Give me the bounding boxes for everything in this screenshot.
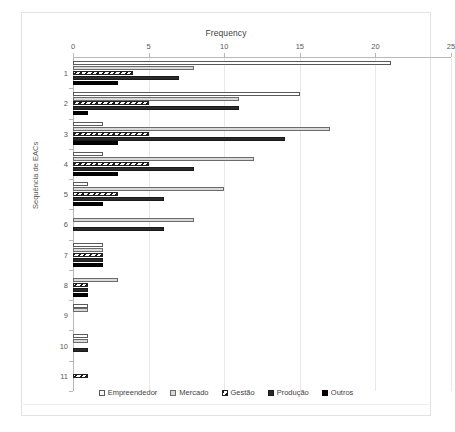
y-tick-label: 5 <box>64 190 68 199</box>
legend-label: Outros <box>331 388 354 397</box>
bar-mercado <box>73 97 239 101</box>
legend-swatch-icon <box>322 390 328 396</box>
bar-group: 6 <box>73 209 451 239</box>
legend-item-empreendedor[interactable]: Empreendedor <box>99 388 158 397</box>
bar-group: 9 <box>73 300 451 330</box>
bar-produção <box>73 76 179 80</box>
bar-empreendedor <box>73 334 88 338</box>
legend-swatch-icon <box>222 390 228 396</box>
y-tick-label: 4 <box>64 159 68 168</box>
legend-divider <box>23 404 429 405</box>
legend-label: Gestão <box>231 388 255 397</box>
bar-group: 1 <box>73 58 451 88</box>
bar-mercado <box>73 157 254 161</box>
y-tick-label: 7 <box>64 250 68 259</box>
bar-mercado <box>73 308 88 312</box>
chart-title: Frequency <box>22 28 430 38</box>
bar-outros <box>73 202 103 206</box>
x-tick-label: 0 <box>71 42 75 51</box>
bar-mercado <box>73 248 103 252</box>
chart-legend: EmpreendedorMercadoGestãoProduçãoOutros <box>22 388 430 397</box>
bar-mercado <box>73 187 224 191</box>
x-tick-label: 15 <box>296 42 304 51</box>
bar-empreendedor <box>73 122 103 126</box>
bar-outros <box>73 263 103 267</box>
legend-item-outros[interactable]: Outros <box>322 388 354 397</box>
legend-item-gestão[interactable]: Gestão <box>222 388 255 397</box>
bar-gestão <box>73 192 118 196</box>
x-tick-label: 20 <box>371 42 379 51</box>
bar-produção <box>73 227 164 231</box>
x-tick-mark <box>73 53 74 57</box>
bar-group: 8 <box>73 270 451 300</box>
y-tick-label: 11 <box>60 371 68 380</box>
chart-frame: Frequency Sequência de EACs 0510152025 1… <box>21 12 431 416</box>
bar-gestão <box>73 71 133 75</box>
bar-produção <box>73 167 194 171</box>
y-tick-label: 8 <box>64 281 68 290</box>
legend-label: Mercado <box>179 388 208 397</box>
x-tick-mark <box>451 53 452 57</box>
bar-produção <box>73 258 103 262</box>
bar-empreendedor <box>73 92 300 96</box>
legend-swatch-icon <box>268 390 274 396</box>
bar-mercado <box>73 278 118 282</box>
bar-empreendedor <box>73 182 88 186</box>
legend-swatch-icon <box>170 390 176 396</box>
bar-produção <box>73 348 88 352</box>
x-tick-mark <box>224 53 225 57</box>
y-tick-label: 6 <box>64 220 68 229</box>
bar-empreendedor <box>73 152 103 156</box>
y-tick-label: 3 <box>64 129 68 138</box>
x-tick-label: 10 <box>220 42 228 51</box>
bar-group: 2 <box>73 88 451 118</box>
y-tick-label: 9 <box>64 311 68 320</box>
bar-produção <box>73 288 88 292</box>
bar-outros <box>73 111 88 115</box>
bar-outros <box>73 293 88 297</box>
y-tick-label: 10 <box>60 341 68 350</box>
bar-outros <box>73 141 118 145</box>
bar-mercado <box>73 218 194 222</box>
bar-produção <box>73 106 239 110</box>
bar-empreendedor <box>73 243 103 247</box>
bar-gestão <box>73 162 149 166</box>
plot-area: 0510152025 1234567891011 <box>73 58 451 391</box>
legend-swatch-icon <box>99 390 105 396</box>
bar-group: 5 <box>73 179 451 209</box>
bar-group: 3 <box>73 119 451 149</box>
bar-group: 10 <box>73 330 451 360</box>
bar-empreendedor <box>73 61 391 65</box>
bar-gestão <box>73 132 149 136</box>
bar-outros <box>73 172 118 176</box>
bar-mercado <box>73 66 194 70</box>
x-tick-mark <box>149 53 150 57</box>
bar-produção <box>73 137 285 141</box>
x-tick-mark <box>375 53 376 57</box>
x-tick-mark <box>300 53 301 57</box>
legend-item-produção[interactable]: Produção <box>268 388 309 397</box>
bar-mercado <box>73 339 88 343</box>
bar-outros <box>73 81 118 85</box>
bar-mercado <box>73 127 330 131</box>
bar-group: 11 <box>73 361 451 391</box>
bar-gestão <box>73 253 103 257</box>
bar-empreendedor <box>73 304 88 308</box>
bar-group: 7 <box>73 240 451 270</box>
bar-gestão <box>73 283 88 287</box>
bar-gestão <box>73 374 88 378</box>
legend-label: Empreendedor <box>108 388 158 397</box>
bar-group: 4 <box>73 149 451 179</box>
y-tick-label: 1 <box>64 69 68 78</box>
x-tick-label: 25 <box>447 42 455 51</box>
y-tick-label: 2 <box>64 99 68 108</box>
bar-produção <box>73 197 164 201</box>
legend-item-mercado[interactable]: Mercado <box>170 388 208 397</box>
legend-label: Produção <box>277 388 309 397</box>
y-axis-label: Sequência de EACs <box>31 142 40 209</box>
x-tick-label: 5 <box>147 42 151 51</box>
bar-gestão <box>73 101 149 105</box>
gridline-25 <box>451 58 452 391</box>
